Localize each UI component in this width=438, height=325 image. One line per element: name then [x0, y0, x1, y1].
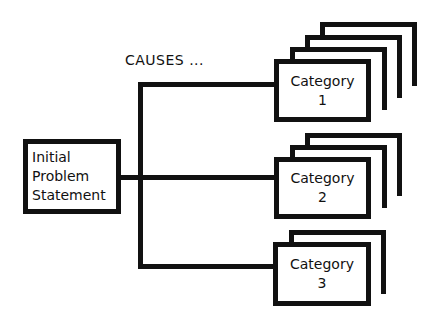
connector-category-3	[138, 264, 276, 269]
category-3-title: Category	[290, 255, 354, 274]
connector-category-1	[138, 82, 276, 87]
category-1-title: Category	[291, 72, 355, 91]
category-1-number: 1	[318, 91, 327, 110]
category-2-number: 2	[318, 188, 327, 207]
causes-heading: CAUSES ...	[125, 52, 204, 68]
connector-category-2	[138, 175, 276, 180]
category-3-number: 3	[318, 274, 327, 293]
category-2-box: Category 2	[274, 157, 371, 219]
problem-line-1: Initial	[32, 148, 71, 167]
problem-line-3: Statement	[32, 186, 106, 205]
category-3-box: Category 3	[273, 242, 371, 306]
category-2-title: Category	[291, 169, 355, 188]
category-1-box: Category 1	[274, 59, 371, 122]
problem-line-2: Problem	[32, 167, 89, 186]
problem-statement-box: Initial Problem Statement	[23, 139, 121, 214]
